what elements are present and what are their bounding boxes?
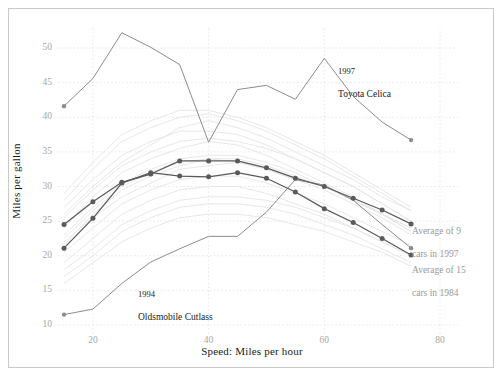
- y-tick-30: 30: [28, 181, 52, 191]
- background-series: [64, 110, 411, 283]
- avg9-line1: Average of 9: [412, 226, 461, 236]
- x-axis-title: Speed: Miles per hour: [0, 345, 504, 357]
- avg15-line2: cars in 1984: [412, 288, 458, 298]
- plot-canvas: [0, 0, 504, 378]
- y-tick-45: 45: [28, 77, 52, 87]
- y-tick-35: 35: [28, 146, 52, 156]
- series-1: [62, 180, 413, 317]
- x-tick-60: 60: [309, 335, 339, 345]
- y-tick-50: 50: [28, 42, 52, 52]
- x-tick-40: 40: [194, 335, 224, 345]
- y-tick-20: 20: [28, 250, 52, 260]
- oldsmobile-cutlass-label: 1994 Oldsmobile Cutlass: [138, 277, 213, 323]
- avg15-line1: Average of 15: [412, 265, 466, 275]
- x-tick-20: 20: [78, 335, 108, 345]
- celica-model: Toyota Celica: [338, 89, 391, 99]
- y-axis-title: Miles per gallon: [10, 121, 22, 241]
- olds-model: Oldsmobile Cutlass: [138, 312, 213, 322]
- toyota-celica-label: 1997 Toyota Celica: [338, 54, 391, 100]
- x-tick-80: 80: [425, 335, 455, 345]
- average-15-1984-label: Average of 15 cars in 1984: [412, 253, 466, 299]
- gridlines: [58, 28, 458, 335]
- chart-figure: Speed: Miles per hour Miles per gallon 1…: [0, 0, 504, 378]
- y-tick-40: 40: [28, 111, 52, 121]
- y-tick-10: 10: [28, 319, 52, 329]
- celica-year: 1997: [338, 66, 355, 76]
- y-tick-15: 15: [28, 284, 52, 294]
- y-tick-25: 25: [28, 215, 52, 225]
- olds-year: 1994: [138, 289, 155, 299]
